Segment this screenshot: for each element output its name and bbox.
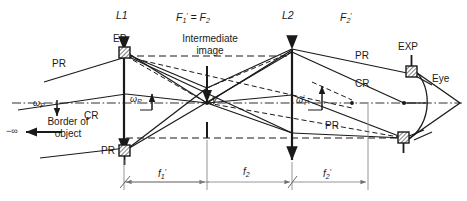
label-focal2-prime: F2′: [340, 10, 352, 26]
label-eye: Eye: [432, 73, 449, 84]
ray-out-lower-2: [292, 133, 404, 138]
ray-bundle: [18, 49, 432, 158]
label-lens-l1: L1: [116, 10, 128, 21]
label-pr-lower-right: PR: [325, 120, 339, 131]
ray-imgpt-to-l2bot: [207, 103, 292, 133]
stop-exit-pupil-top: [406, 55, 417, 77]
label-intermediate-image-line1: Intermediate: [170, 33, 250, 44]
eye-symbol: [402, 68, 460, 142]
ray-pr-out-upper: [292, 49, 412, 74]
label-minus-infinity: −∞: [6, 126, 18, 137]
label-cr-left: CR: [84, 110, 98, 121]
label-omega-p-prime-right: ω′P: [296, 92, 309, 108]
ray-imgpt-to-l2top: [207, 50, 292, 103]
label-f2-sub: 2: [206, 17, 210, 24]
figure-canvas: L1 F1′ = F2 L2 F2′ EP EXP Eye Intermedia…: [0, 0, 467, 201]
stop-entrance-pupil-top: [119, 47, 130, 58]
label-dim-f2: f2: [243, 166, 250, 180]
label-omega-p-left: ωP: [33, 98, 45, 111]
angle-omega-p-right: [308, 86, 322, 110]
label-lens-l2: L2: [282, 10, 294, 21]
stop-entrance-pupil-bottom: [119, 145, 130, 165]
label-focal-common: F1′ = F2: [176, 10, 210, 26]
label-cr-right: CR: [355, 78, 369, 89]
label-pr-upper-left: PR: [52, 58, 66, 69]
label-dim-f1-prime: f1′: [158, 166, 166, 182]
label-border-of-object-line2: object: [34, 128, 102, 139]
ray-diagram-svg: [0, 0, 467, 201]
label-image-height-y-prime: y′: [212, 92, 218, 105]
label-exit-pupil: EXP: [398, 41, 418, 52]
label-intermediate-image-line2: image: [170, 45, 250, 56]
label-dim-f2-prime: f2′: [323, 166, 331, 182]
ray-l1top-to-imagetop: [126, 54, 207, 88]
label-eq: =: [188, 11, 200, 23]
label-omega-p-mid: ωP: [130, 94, 142, 107]
label-pr-lower-left: PR: [101, 145, 115, 156]
label-entrance-pupil: EP: [113, 33, 126, 44]
label-pr-upper-right: PR: [355, 50, 369, 61]
stop-exit-pupil-bottom: [398, 132, 409, 153]
